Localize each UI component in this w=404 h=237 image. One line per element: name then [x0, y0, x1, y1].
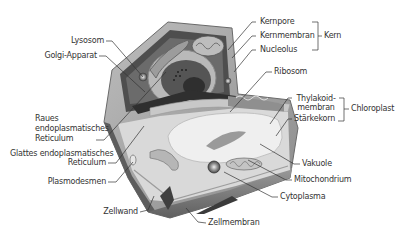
label-cytoplasma: Cytoplasma [280, 192, 325, 202]
label-nucleolus: Nucleolus [260, 45, 297, 55]
label-zellmembran: Zellmembran [208, 218, 260, 228]
label-vakuole: Vakuole [302, 159, 332, 169]
label-ribosom: Ribosom [274, 67, 307, 77]
label-mitochondrium: Mitochondrium [294, 175, 351, 185]
label-raues-er-line2: endoplasmatisches [35, 124, 109, 134]
cytoplasm-organelle [208, 161, 220, 173]
label-lysosom: Lysosom [60, 36, 104, 46]
label-kernmembran: Kernmembran [260, 31, 315, 41]
label-plasmodesmen: Plasmodesmen [40, 177, 106, 187]
plant-cell-diagram: Lysosom Golgi-Apparat Raues endoplasmati… [0, 0, 404, 237]
label-zellwand: Zellwand [90, 207, 138, 217]
label-golgi-apparat: Golgi-Apparat [40, 51, 97, 61]
group-label-kern: Kern [324, 31, 341, 41]
label-thylakoid-line2: membran [292, 103, 340, 113]
lower-mitochondrion [226, 158, 262, 170]
label-raues-er-line3: Reticulum [35, 134, 73, 144]
label-glattes-er-line2: Reticulum [10, 158, 106, 168]
label-raues-er-line1: Raues [35, 114, 58, 124]
label-staerkekorn: Stärkekorn [294, 114, 335, 124]
top-mitochondrion [192, 36, 224, 56]
plasmodesma [130, 155, 136, 165]
group-label-chloroplast: Chloroplast [351, 104, 394, 114]
label-kernpore: Kernpore [260, 17, 294, 27]
